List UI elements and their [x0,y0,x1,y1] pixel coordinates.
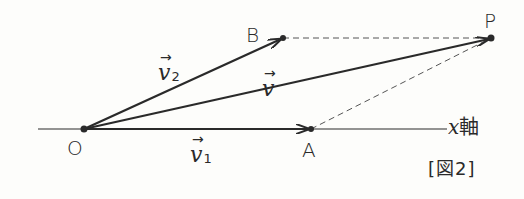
point-o-label: O [67,138,83,158]
vector-arrow-icon: → [160,50,172,64]
vector-arrow-icon: → [192,132,204,146]
point-a-dot [308,126,314,132]
point-b-dot [280,35,286,41]
vector-v-arrow [84,39,489,129]
vector-v2-arrow [84,39,281,129]
x-axis-label: x軸 [448,117,479,137]
point-a-label: A [302,140,316,160]
vector-v2-label: →v2 [158,62,180,84]
point-p-label: P [484,11,496,31]
point-p-dot [488,35,495,42]
point-o-dot [81,126,88,133]
point-b-label: B [246,25,259,45]
vector-v-label: →v [262,78,274,100]
vector-v1-label: →v1 [190,144,212,166]
figure-caption: [図2] [428,160,476,178]
vector-diagram: O A B P →v2 →v →v1 x軸 [図2] [0,0,524,199]
vector-arrow-icon: → [264,66,276,80]
